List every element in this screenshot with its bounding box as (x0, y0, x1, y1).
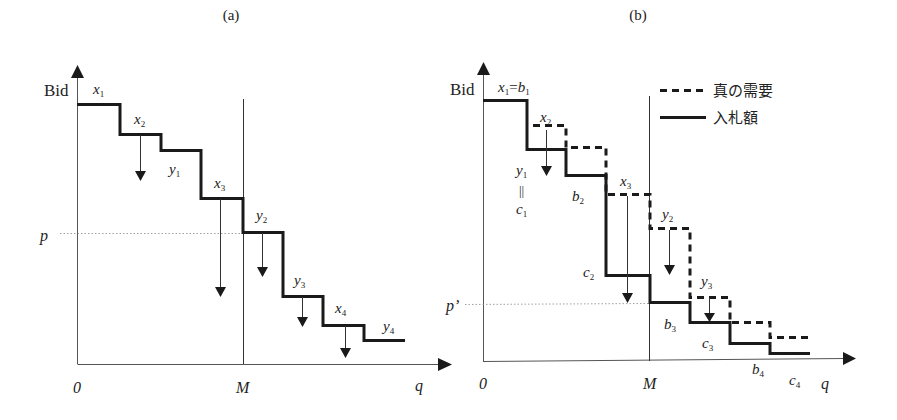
label-b2: b2 (572, 188, 584, 206)
label-x3: x3 (213, 175, 226, 193)
p-prime-label: p’ (445, 297, 459, 315)
origin-label: 0 (73, 379, 81, 396)
x-axis-arrow-icon (843, 352, 856, 365)
y-axis-arrow-icon (71, 65, 84, 78)
panel-a-title: (a) (223, 7, 240, 24)
label-y1: y1 (514, 162, 527, 180)
legend-bid-amount-label: 入札額 (713, 110, 758, 126)
p-prime-dotted-line (465, 304, 650, 305)
y-axis-arrow-icon (477, 62, 490, 75)
p-label: p (39, 227, 48, 245)
q-label: q (821, 375, 829, 393)
y-axis-label: Bid (44, 81, 69, 100)
label-x4: x4 (334, 300, 347, 318)
legend: 真の需要 入札額 (660, 82, 773, 126)
m-label: M (235, 379, 251, 396)
y-axis-label: Bid (450, 80, 475, 99)
label-y4: y4 (381, 318, 395, 336)
label-parallel: || (519, 183, 524, 198)
bid-step-curve (77, 105, 405, 341)
label-y2: y2 (254, 207, 267, 225)
label-x2: x2 (133, 111, 145, 129)
panel-b-title: (b) (629, 7, 647, 24)
label-b3: b3 (664, 316, 677, 334)
bid-amount-solid-curve (483, 101, 810, 354)
label-c4: c4 (789, 372, 801, 390)
legend-true-demand-label: 真の需要 (713, 82, 773, 99)
auction-bid-diagram: (a) Bid 0 M q p (0, 0, 897, 420)
m-label: M (642, 375, 658, 392)
label-x1-eq-b1: x1=b1 (497, 79, 530, 97)
q-label: q (415, 377, 423, 395)
label-y2: y2 (660, 206, 673, 224)
true-demand-dashed-curve (533, 126, 812, 338)
label-y1: y1 (167, 161, 180, 179)
label-x1: x1 (92, 81, 104, 99)
label-c1: c1 (516, 201, 527, 219)
x-axis (484, 359, 846, 362)
origin-label: 0 (479, 375, 487, 392)
x-axis-arrow-icon (438, 358, 452, 371)
label-c3: c3 (702, 335, 714, 353)
panel-a: (a) Bid 0 M q p (39, 7, 452, 396)
label-b4: b4 (752, 361, 765, 379)
panel-b: (b) 真の需要 入札 (445, 7, 856, 393)
label-x2: x2 (539, 109, 551, 127)
label-y3: y3 (292, 272, 306, 290)
label-c2: c2 (583, 264, 594, 282)
down-arrows (547, 130, 710, 314)
label-y3: y3 (699, 273, 713, 291)
label-x3: x3 (619, 173, 632, 191)
